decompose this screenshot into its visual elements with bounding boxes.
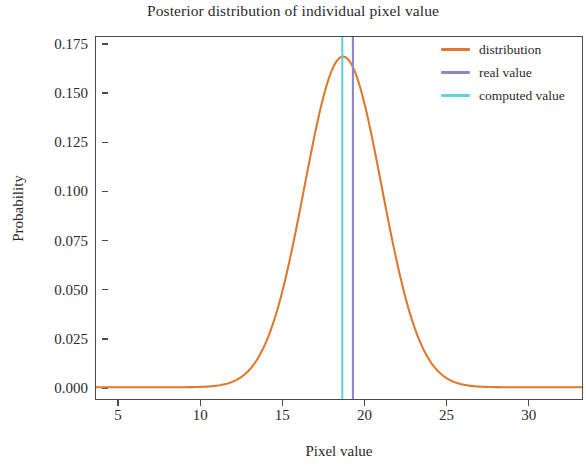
y-tick-label: 0.100 [22, 183, 88, 200]
x-tick-label: 5 [88, 407, 148, 424]
y-tick-label: 0.000 [22, 380, 88, 397]
legend-color-swatch [441, 71, 470, 73]
legend-label: computed value [479, 88, 565, 104]
x-tick-label: 25 [417, 407, 477, 424]
y-tick-label: 0.125 [22, 134, 88, 151]
x-tick-label: 10 [170, 407, 230, 424]
legend-label: real value [479, 65, 532, 81]
legend-label: distribution [479, 42, 541, 58]
x-tick-mark [364, 400, 365, 406]
legend-item[interactable]: real value [441, 61, 586, 84]
y-tick-label: 0.175 [22, 35, 88, 52]
y-tick-label: 0.075 [22, 232, 88, 249]
x-tick-mark [446, 400, 447, 406]
legend-color-swatch [441, 94, 470, 96]
legend-item[interactable]: computed value [441, 84, 586, 107]
x-tick-mark [117, 400, 118, 406]
chart-page: Posterior distribution of individual pix… [0, 0, 586, 475]
y-tick-label: 0.150 [22, 85, 88, 102]
y-axis-tick-labels: 0.0000.0250.0500.0750.1000.1250.1500.175 [14, 0, 88, 475]
x-tick-label: 30 [499, 407, 559, 424]
y-tick-label: 0.025 [22, 331, 88, 348]
legend-color-swatch [441, 48, 470, 50]
y-tick-label: 0.050 [22, 281, 88, 298]
x-axis-title: Pixel value [95, 443, 583, 460]
x-tick-mark [528, 400, 529, 406]
x-tick-mark [200, 400, 201, 406]
x-tick-label: 20 [334, 407, 394, 424]
x-tick-label: 15 [252, 407, 312, 424]
x-tick-mark [282, 400, 283, 406]
chart-legend: distributionreal valuecomputed value [441, 38, 586, 107]
legend-item[interactable]: distribution [441, 38, 586, 61]
